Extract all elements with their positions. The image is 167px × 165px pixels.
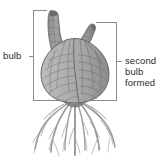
label-bulb: bulb <box>3 50 21 61</box>
label-second-bulb-line-2: bulb <box>125 66 156 77</box>
label-second-bulb-line-3: formed <box>125 77 156 88</box>
label-second-bulb-line-1: second <box>125 55 156 66</box>
bulb-diagram: bulb second bulb formed <box>0 0 167 165</box>
root-system <box>33 103 115 156</box>
label-second-bulb-formed: second bulb formed <box>125 55 156 88</box>
